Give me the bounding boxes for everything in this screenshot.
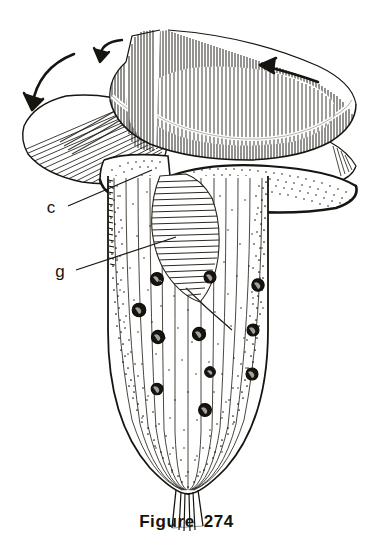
figure-page: c g Figure274 xyxy=(0,0,373,559)
label-c: c xyxy=(47,198,56,217)
caption-number: 274 xyxy=(204,512,234,532)
body xyxy=(108,174,268,494)
figure-caption: Figure274 xyxy=(0,512,373,532)
arrow-top-left-inner xyxy=(94,40,122,62)
label-g: g xyxy=(55,262,64,281)
caption-label: Figure xyxy=(139,512,195,532)
ciliate-illustration: c g xyxy=(0,0,373,559)
